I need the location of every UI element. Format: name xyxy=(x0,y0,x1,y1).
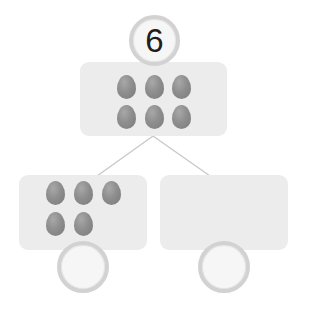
egg-icon xyxy=(74,181,93,205)
egg-icon xyxy=(145,105,164,129)
egg-icon xyxy=(46,181,65,205)
egg-icon xyxy=(117,105,136,129)
egg-icon xyxy=(172,105,191,129)
egg-icon xyxy=(74,212,93,236)
part-left-answer-circle[interactable] xyxy=(57,241,109,293)
egg-icon xyxy=(172,75,191,99)
whole-number: 6 xyxy=(145,24,163,57)
part-right-box xyxy=(160,175,288,250)
egg-icon xyxy=(46,212,65,236)
part-right-answer-circle[interactable] xyxy=(198,241,250,293)
egg-icon xyxy=(145,75,164,99)
egg-icon xyxy=(102,181,121,205)
whole-number-circle: 6 xyxy=(129,15,180,66)
egg-icon xyxy=(117,75,136,99)
